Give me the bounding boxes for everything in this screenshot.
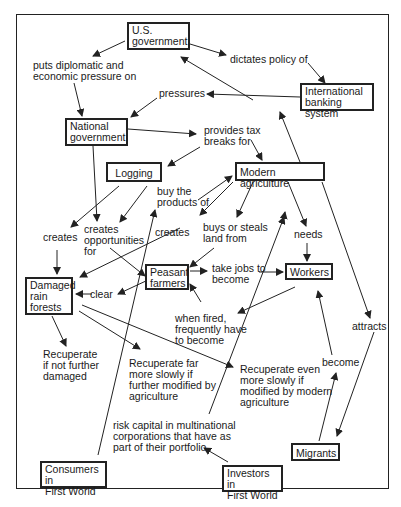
node-damaged-rain-forests: Damaged rain forests bbox=[25, 277, 73, 315]
node-migrants: Migrants bbox=[291, 443, 340, 461]
label-creates-logging: creates bbox=[43, 232, 77, 243]
label-provides-tax: provides tax breaks for bbox=[204, 125, 261, 147]
label-recuperate-3: Recuperate even more slowly if modified … bbox=[240, 364, 332, 408]
label-recuperate-1: Recuperate if not further damaged bbox=[43, 349, 99, 382]
label-buys-steals: buys or steals land from bbox=[203, 222, 268, 244]
label-recuperate-2: Recuperate far more slowly if further mo… bbox=[129, 358, 216, 402]
label-attracts: attracts bbox=[352, 321, 386, 332]
label-needs: needs bbox=[294, 229, 323, 240]
label-creates-opportunities: creates opportunities for bbox=[84, 224, 144, 257]
label-dictates-policy: dictates policy of bbox=[230, 54, 308, 65]
node-national-government: National government bbox=[65, 118, 128, 146]
label-when-fired: when fired, frequently have to become bbox=[175, 313, 247, 346]
node-investors-first-world: Investors in First World bbox=[222, 465, 283, 492]
node-logging: Logging bbox=[106, 162, 162, 182]
node-international-banking: International banking system bbox=[300, 83, 374, 111]
label-clear: clear bbox=[90, 289, 113, 300]
node-us-government: U.S. government bbox=[127, 22, 190, 50]
node-modern-agriculture: Modern agriculture bbox=[235, 162, 325, 181]
label-buy-products: buy the products of bbox=[157, 186, 209, 208]
label-puts-pressure: puts diplomatic and economic pressure on bbox=[33, 60, 136, 82]
label-pressures: pressures bbox=[159, 88, 205, 99]
label-take-jobs: take jobs to become bbox=[212, 263, 266, 285]
label-creates-agriculture: creates bbox=[155, 227, 189, 238]
label-risk-capital: risk capital in multinational corporatio… bbox=[113, 420, 236, 453]
node-consumers-first-world: Consumers in First World bbox=[40, 461, 107, 488]
node-peasant-farmers: Peasant farmers bbox=[145, 264, 189, 290]
node-workers: Workers bbox=[285, 263, 333, 280]
